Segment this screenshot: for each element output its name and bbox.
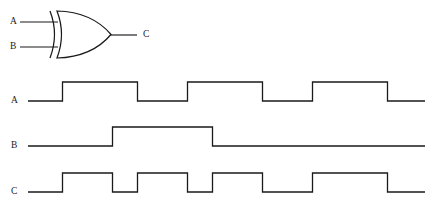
waveform-b-label: B [11, 140, 17, 150]
waveform-a-label: A [11, 95, 18, 105]
figure-canvas: A B C A B C [0, 0, 437, 204]
xor-gate-symbol: A B C [10, 11, 149, 58]
gate-input-b-label: B [10, 41, 16, 51]
xor-timing-figure: A B C A B C [0, 0, 437, 204]
waveform-a-trace [28, 82, 425, 101]
waveform-c-trace [28, 173, 425, 192]
xor-back-arc-icon [50, 11, 55, 58]
waveform-b-trace [28, 127, 425, 146]
xor-gate-body-icon [57, 11, 111, 58]
waveform-c-label: C [11, 186, 17, 196]
gate-output-c-label: C [143, 29, 149, 39]
gate-input-a-label: A [10, 16, 17, 26]
timing-waveforms: A B C [11, 82, 425, 196]
